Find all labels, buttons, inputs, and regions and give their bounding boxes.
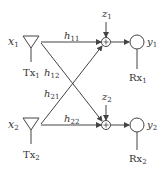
- noise-z1-label: z1: [101, 8, 112, 21]
- rx1-receiver-icon: [130, 35, 144, 69]
- noise-z2-label: z2: [101, 91, 112, 104]
- rx1-label: Rx1: [129, 72, 147, 85]
- tx1-label: Tx1: [23, 67, 40, 80]
- mimo-diagram: x1 x2 Tx1 Tx2 h11 h12 h21 h22 z1 z2 y1 y…: [0, 0, 164, 171]
- output-y1-label: y1: [146, 36, 157, 49]
- adder-2-icon: [102, 121, 111, 130]
- tx1-antenna-icon: [23, 36, 39, 62]
- channel-h21-label: h21: [44, 88, 59, 101]
- adder-1-icon: [102, 38, 111, 47]
- rx2-label: Rx2: [129, 153, 147, 166]
- rx2-receiver-icon: [130, 118, 144, 150]
- input-x2-label: x2: [8, 118, 19, 132]
- input-x1-label: x1: [8, 35, 19, 49]
- output-y2-label: y2: [146, 119, 157, 132]
- channel-h12-label: h12: [44, 67, 59, 80]
- tx2-antenna-icon: [23, 118, 39, 144]
- tx2-label: Tx2: [23, 149, 40, 162]
- link-h21: [41, 46, 102, 124]
- channel-h22-label: h22: [64, 113, 79, 126]
- link-h12: [41, 43, 102, 121]
- channel-h11-label: h11: [64, 30, 79, 43]
